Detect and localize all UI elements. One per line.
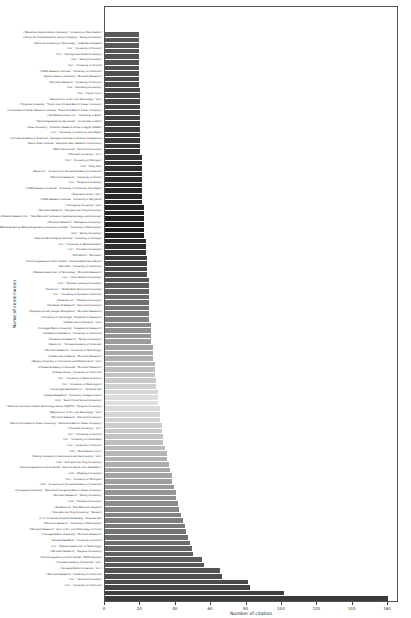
y-tick-label: ('Inc.', 'University of Michigan') <box>65 477 102 482</box>
bar <box>105 406 160 411</box>
y-tick-label: ('Inc.', 'University of Toronto') <box>67 46 102 51</box>
bar <box>105 295 149 300</box>
y-tick-label: ('Carnegie Mellon University', 'Inc.') <box>60 566 102 571</box>
y-tick-label: ('Carnegie Mellon University', 'Facebook… <box>38 326 102 331</box>
y-tick-label: ('National University of Technology', 'L… <box>33 41 102 46</box>
x-axis-label: Number of citation <box>230 611 272 616</box>
bar <box>105 88 140 93</box>
bar <box>105 82 139 87</box>
y-tick-label: ('Shanghai AI Lab (Jiangsu Zhongshan)', … <box>29 309 102 314</box>
y-tick-label: ('Inc.', 'Johns Hopkins University') <box>62 275 102 280</box>
bar <box>105 546 192 551</box>
bar <box>105 211 144 216</box>
bar <box>105 574 222 579</box>
y-tick-label: ('Forschungszentrum Jülich GmbH', 'RWTH … <box>40 555 102 560</box>
bar <box>105 356 153 361</box>
x-tick-label: 40 <box>172 606 177 611</box>
bar <box>105 161 142 166</box>
bar <box>105 267 147 272</box>
bar <box>105 32 139 37</box>
y-tick-label: ('Microsoft Research', 'University of Il… <box>50 175 102 180</box>
y-tick-label: ('University of Cambridge', 'Facebook AI… <box>41 315 102 320</box>
y-tick-label: ('Microsoft Research', 'University of Wa… <box>43 521 102 526</box>
bar <box>105 440 163 445</box>
bar <box>105 328 151 333</box>
y-tick-label: ('Microsoft Research', 'Zhengzhou Univer… <box>47 220 102 225</box>
y-tick-label: ('Microsoft University', 'Inc.') <box>68 152 102 157</box>
y-tick-label: ('Ltd.', 'Peking University') <box>71 231 102 236</box>
y-tick-label: ('Microsoft Research', 'Stanford Univers… <box>50 415 102 420</box>
y-tick-label: ('Microsoft Research', 'University of Ca… <box>46 572 102 577</box>
x-tick <box>352 602 353 605</box>
bar <box>105 378 156 383</box>
x-tick <box>104 602 105 605</box>
bar <box>105 535 188 540</box>
bar <box>105 446 165 451</box>
y-tick-label: ('Columbia University', 'Inc.') <box>68 426 102 431</box>
y-tick-label: ('Ltd.', 'Tsinghua University') <box>68 499 102 504</box>
bar <box>105 66 139 71</box>
bar <box>105 121 140 126</box>
bar <box>105 541 190 546</box>
bar <box>105 351 153 356</box>
y-tick-label: ('Chinese Academy of Sciences', 'Microso… <box>38 365 102 370</box>
y-tick-label: ('Baidu Inc.', 'Chinese Academy of Scien… <box>48 342 102 347</box>
bar <box>105 490 176 495</box>
bar <box>105 144 140 149</box>
y-tick-label: ('Inc.', 'University of Massachusetts') <box>58 242 102 247</box>
bar <box>105 496 176 501</box>
y-tick-label: ('National Institute of Health Technolog… <box>6 404 102 409</box>
bar <box>105 518 183 523</box>
y-tick-label: ('Inc.', 'Tsinghua University') <box>68 180 102 185</box>
y-tick-label: ('Chinese Academy of Sciences', 'Shangha… <box>10 136 102 141</box>
bar <box>105 462 169 467</box>
bar <box>105 501 178 506</box>
y-tick-label: ('Cambridge Healthtech Inc.', 'Sciences … <box>49 387 102 392</box>
y-tick-label: ('Inc.', 'University of Washington') <box>62 382 102 387</box>
y-tick-label: ('Ltd.', 'Zhejiang University') <box>68 471 102 476</box>
y-tick-label: ('Inc.', 'University of Texas at Austin'… <box>58 376 102 381</box>
bar <box>105 244 146 249</box>
x-tick <box>281 602 282 605</box>
y-tick-label: ('Forschungszentrum Jülich GmbH', 'Unive… <box>26 259 102 264</box>
y-tick-label: ('Inc.', 'Stanford University') <box>69 577 102 582</box>
y-tick-label: ('Microsoft', 'University of California'… <box>58 264 102 269</box>
y-tick-label: ('Sharma Technological Institute', 'Univ… <box>34 236 102 241</box>
bar <box>105 585 250 590</box>
bar <box>105 529 186 534</box>
bar <box>105 256 147 261</box>
x-tick-label: 100 <box>277 606 285 611</box>
bar <box>105 457 167 462</box>
y-tick-label: ('Facebook AI Research', 'University of … <box>43 331 102 336</box>
y-tick-label: ('Tsinghua University', 'Tianjin Lite Ch… <box>20 102 102 107</box>
y-tick-label: ('Ltd.', 'Shandong University') <box>67 85 102 90</box>
bar <box>105 116 140 121</box>
y-tick-label: ('Facebook Inc.', 'Tsinghua University') <box>56 298 102 303</box>
y-tick-label: ('Facebook AI Research', 'Stanford Unive… <box>47 303 102 308</box>
x-tick-label: 0 <box>103 606 106 611</box>
bar <box>105 138 140 143</box>
y-tick-label: ('Ltd.', 'Peking University') <box>71 57 102 62</box>
y-tick-label: ('Suez University', 'Scientific Research… <box>27 125 102 130</box>
x-tick <box>175 602 176 605</box>
y-tick-label: ('Facebook AI Research', 'Tel Aviv Unive… <box>48 337 102 342</box>
bar <box>105 362 155 367</box>
x-tick-label: 120 <box>312 606 320 611</box>
bar <box>105 306 149 311</box>
y-tick-label: ('Inc.', 'University of Cambridge') <box>63 437 102 442</box>
y-tick-label: ('Ltd.', 'Northeastern Univ.') <box>69 449 102 454</box>
bar-chart: ('MetaCore (Sophia Global Company)', 'Un… <box>0 0 411 618</box>
y-tick-label: ('MetaCore (Sophia Global Company)', 'Un… <box>23 30 102 35</box>
bar <box>105 54 139 59</box>
bar <box>105 149 140 154</box>
y-tick-label: ('Inc.', 'Massachusetts Inst. of Technol… <box>51 544 102 549</box>
y-tick-label: ('UK Medical Xinhua Inc.', 'University o… <box>47 113 102 118</box>
x-tick <box>210 602 211 605</box>
y-tick-label: ('CNRS Research Institute', 'University … <box>40 197 102 202</box>
bar <box>105 194 142 199</box>
bar <box>105 479 172 484</box>
bar <box>105 568 220 573</box>
y-tick-label: ('Chongqing University', 'Ltd.') <box>66 203 102 208</box>
bar <box>105 183 142 188</box>
bar <box>105 300 149 305</box>
